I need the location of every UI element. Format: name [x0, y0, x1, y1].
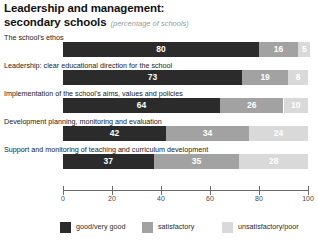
bar-segment: 16: [259, 42, 298, 57]
axis-tick-label: 100: [302, 195, 314, 202]
bar-value-label: 19: [260, 73, 269, 82]
bar-segment: 24: [249, 126, 308, 141]
bar-segment: 28: [239, 154, 308, 169]
stacked-bar: 80165: [63, 42, 308, 57]
bar-value-label: 10: [291, 101, 300, 110]
bar-segment: 34: [166, 126, 249, 141]
axis-tick: [161, 186, 162, 195]
category-label: Development planning, monitoring and eva…: [4, 117, 162, 126]
chart-row: Leadership: clear educational direction …: [0, 61, 318, 89]
bar-value-label: 5: [302, 45, 307, 54]
legend-label: unsatisfactory/poor: [238, 223, 299, 230]
stacked-bar: 73198: [63, 70, 308, 85]
axis-tick: [308, 186, 309, 195]
stacked-bar: 423424: [63, 126, 308, 141]
bar-value-label: 24: [274, 129, 283, 138]
bar-value-label: 8: [296, 73, 301, 82]
category-label: The school's ethos: [4, 33, 64, 42]
x-axis: [63, 190, 308, 191]
bar-value-label: 26: [247, 101, 256, 110]
legend-swatch-icon: [222, 222, 233, 233]
bar-value-label: 34: [203, 129, 212, 138]
bar-value-label: 37: [104, 157, 113, 166]
chart-subtitle: (percentage of schools): [110, 19, 188, 28]
axis-tick-label: 60: [206, 195, 214, 202]
axis-tick-label: 20: [108, 195, 116, 202]
axis-tick: [259, 186, 260, 195]
bar-segment: 64: [63, 98, 220, 113]
chart-container: Leadership and management: secondary sch…: [0, 0, 318, 243]
plot-area: The school's ethos80165Leadership: clear…: [0, 33, 318, 185]
category-label: Support and monitoring of teaching and c…: [4, 145, 208, 154]
axis-tick-label: 80: [255, 195, 263, 202]
axis-tick-label: 40: [157, 195, 165, 202]
axis-tick: [210, 186, 211, 195]
category-label: Implementation of the school's aims, val…: [4, 89, 183, 98]
legend-swatch-icon: [60, 222, 71, 233]
legend-item[interactable]: good/very good: [60, 221, 126, 233]
bar-value-label: 35: [192, 157, 201, 166]
legend-item[interactable]: satisfactory: [142, 221, 194, 233]
bar-value-label: 28: [269, 157, 278, 166]
bar-value-label: 42: [110, 129, 119, 138]
chart-legend: good/very goodsatisfactoryunsatisfactory…: [0, 221, 318, 237]
bar-segment: 5: [298, 42, 310, 57]
page-title-line2-text: secondary schools: [4, 16, 106, 28]
stacked-bar: 642610: [63, 98, 308, 113]
bar-value-label: 16: [274, 45, 283, 54]
page-title-line2: secondary schools(percentage of schools): [4, 16, 314, 31]
bar-value-label: 73: [148, 73, 157, 82]
bar-segment: 26: [220, 98, 284, 113]
legend-swatch-icon: [142, 222, 153, 233]
legend-label: good/very good: [76, 223, 126, 230]
legend-label: satisfactory: [158, 223, 194, 230]
axis-tick: [63, 186, 64, 195]
stacked-bar: 373528: [63, 154, 308, 169]
bar-segment: 42: [63, 126, 166, 141]
axis-tick-label: 0: [61, 195, 65, 202]
bar-segment: 73: [63, 70, 242, 85]
bar-segment: 19: [242, 70, 289, 85]
bar-segment: 80: [63, 42, 259, 57]
axis-tick: [112, 186, 113, 195]
bar-segment: 35: [154, 154, 240, 169]
chart-row: Development planning, monitoring and eva…: [0, 117, 318, 145]
bar-value-label: 64: [137, 101, 146, 110]
bar-segment: 37: [63, 154, 154, 169]
chart-row: The school's ethos80165: [0, 33, 318, 61]
bar-segment: 10: [284, 98, 309, 113]
category-label: Leadership: clear educational direction …: [4, 61, 172, 70]
chart-row: Implementation of the school's aims, val…: [0, 89, 318, 117]
bar-segment: 8: [288, 70, 308, 85]
page-title-line1: Leadership and management:: [4, 2, 314, 16]
chart-title-block: Leadership and management: secondary sch…: [4, 2, 314, 30]
legend-item[interactable]: unsatisfactory/poor: [222, 221, 299, 233]
chart-row: Support and monitoring of teaching and c…: [0, 145, 318, 173]
bar-value-label: 80: [156, 45, 165, 54]
